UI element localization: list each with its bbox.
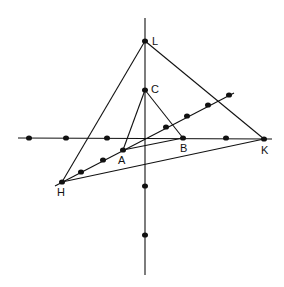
- horizontal-axis-point: [223, 135, 229, 140]
- diagonal-point: [205, 102, 211, 107]
- point-label-K: K: [261, 144, 269, 156]
- geometry-diagram: LCABKH: [0, 0, 284, 287]
- diagonal-point: [120, 147, 126, 152]
- diagram-canvas: LCABKH: [0, 0, 284, 287]
- diagonal-point: [184, 113, 190, 118]
- point-label-L: L: [152, 35, 158, 47]
- horizontal-axis-point: [104, 135, 110, 140]
- diagonal-point: [163, 124, 169, 129]
- diagonal-point: [59, 179, 65, 184]
- diagonal-point: [78, 169, 84, 174]
- point-label-C: C: [151, 83, 159, 95]
- segment-AB: [123, 138, 183, 150]
- point-label-A: A: [118, 154, 126, 166]
- vertical-axis-point: [142, 38, 148, 43]
- horizontal-axis-point: [261, 136, 267, 141]
- diagonal-point: [226, 92, 232, 97]
- horizontal-axis-point: [63, 135, 69, 140]
- segment-CB: [145, 90, 183, 138]
- diagonal-point: [100, 157, 106, 162]
- horizontal-axis-point: [26, 135, 32, 140]
- segment-HK: [62, 139, 264, 182]
- vertical-axis-point: [142, 87, 148, 92]
- vertical-axis-point: [142, 183, 148, 188]
- segment-LK: [145, 41, 264, 139]
- point-label-B: B: [180, 142, 187, 154]
- horizontal-axis-point: [180, 135, 186, 140]
- vertical-axis-point: [142, 232, 148, 237]
- point-label-H: H: [57, 186, 65, 198]
